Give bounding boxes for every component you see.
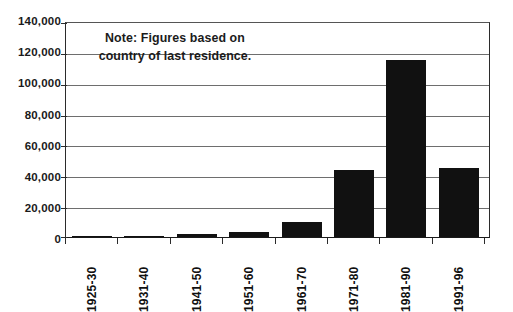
bar-1951-60 (229, 232, 269, 237)
y-tick-mark-20000 (61, 208, 67, 209)
x-tick-mark-5 (327, 238, 328, 244)
x-tick-mark-7 (432, 238, 433, 244)
bar-1981-90 (386, 60, 426, 237)
x-tick-mark-2 (170, 238, 171, 244)
y-tick-mark-80000 (61, 116, 67, 117)
y-tick-label-20000: 20,000 (3, 203, 61, 215)
y-tick-label-80000: 80,000 (3, 110, 61, 122)
y-tick-mark-120000 (61, 54, 67, 55)
bar-1941-50 (177, 234, 217, 237)
x-tick-label-1971-80: 1971-80 (347, 246, 363, 312)
bar-1961-70 (282, 222, 322, 237)
chart-note-line-1: Note: Figures based on (82, 30, 268, 48)
bar-1991-96 (439, 168, 479, 237)
x-tick-mark-4 (275, 238, 276, 244)
x-axis-tick-marks (65, 238, 490, 246)
y-tick-mark-40000 (61, 177, 67, 178)
bar-1925-30 (72, 236, 112, 237)
x-tick-mark-3 (222, 238, 223, 244)
x-tick-label-1961-70: 1961-70 (295, 246, 311, 312)
y-tick-mark-60000 (61, 146, 67, 147)
x-tick-label-1991-96: 1991-96 (452, 246, 468, 312)
x-tick-mark-1 (117, 238, 118, 244)
y-tick-mark-100000 (61, 85, 67, 86)
y-tick-mark-140000 (61, 23, 67, 24)
chart-note-line-2: country of last residence. (82, 48, 268, 66)
bar-1931-40 (124, 236, 164, 237)
x-tick-mark-8 (484, 238, 485, 244)
x-tick-label-1951-60: 1951-60 (242, 246, 258, 312)
x-tick-label-1925-30: 1925-30 (85, 246, 101, 312)
y-tick-label-40000: 40,000 (3, 172, 61, 184)
x-tick-mark-6 (379, 238, 380, 244)
y-tick-label-120000: 120,000 (3, 47, 61, 59)
y-axis-tick-labels: 140,000 120,000 100,000 80,000 60,000 40… (0, 0, 61, 312)
x-tick-label-1941-50: 1941-50 (190, 246, 206, 312)
x-tick-label-1981-90: 1981-90 (399, 246, 415, 312)
x-tick-label-1931-40: 1931-40 (137, 246, 153, 312)
bar-1971-80 (334, 170, 374, 237)
y-tick-label-100000: 100,000 (3, 78, 61, 90)
y-tick-label-0: 0 (3, 234, 61, 246)
y-tick-label-140000: 140,000 (3, 16, 61, 28)
chart-note-annotation: Note: Figures based on country of last r… (82, 30, 268, 65)
bar-chart: 140,000 120,000 100,000 80,000 60,000 40… (0, 0, 513, 312)
x-axis-tick-labels: 1925-30 1931-40 1941-50 1951-60 1961-70 … (65, 246, 490, 312)
y-tick-label-60000: 60,000 (3, 141, 61, 153)
x-tick-mark-0 (65, 238, 66, 244)
